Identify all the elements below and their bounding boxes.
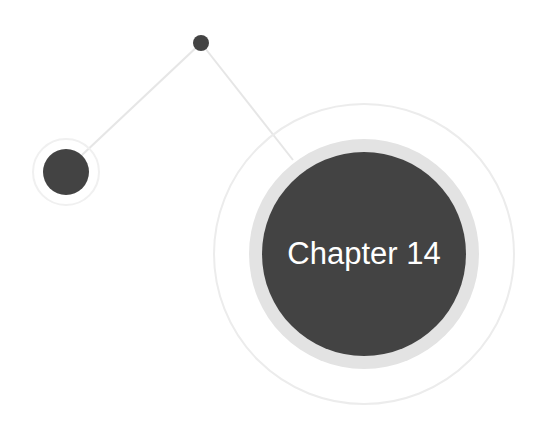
chapter-title: Chapter 14	[264, 232, 464, 276]
connector-line-right	[201, 43, 293, 160]
chapter-diagram	[0, 0, 540, 431]
left-node-circle	[43, 149, 89, 195]
small-dot	[193, 35, 209, 51]
connector-line-left	[82, 43, 201, 155]
